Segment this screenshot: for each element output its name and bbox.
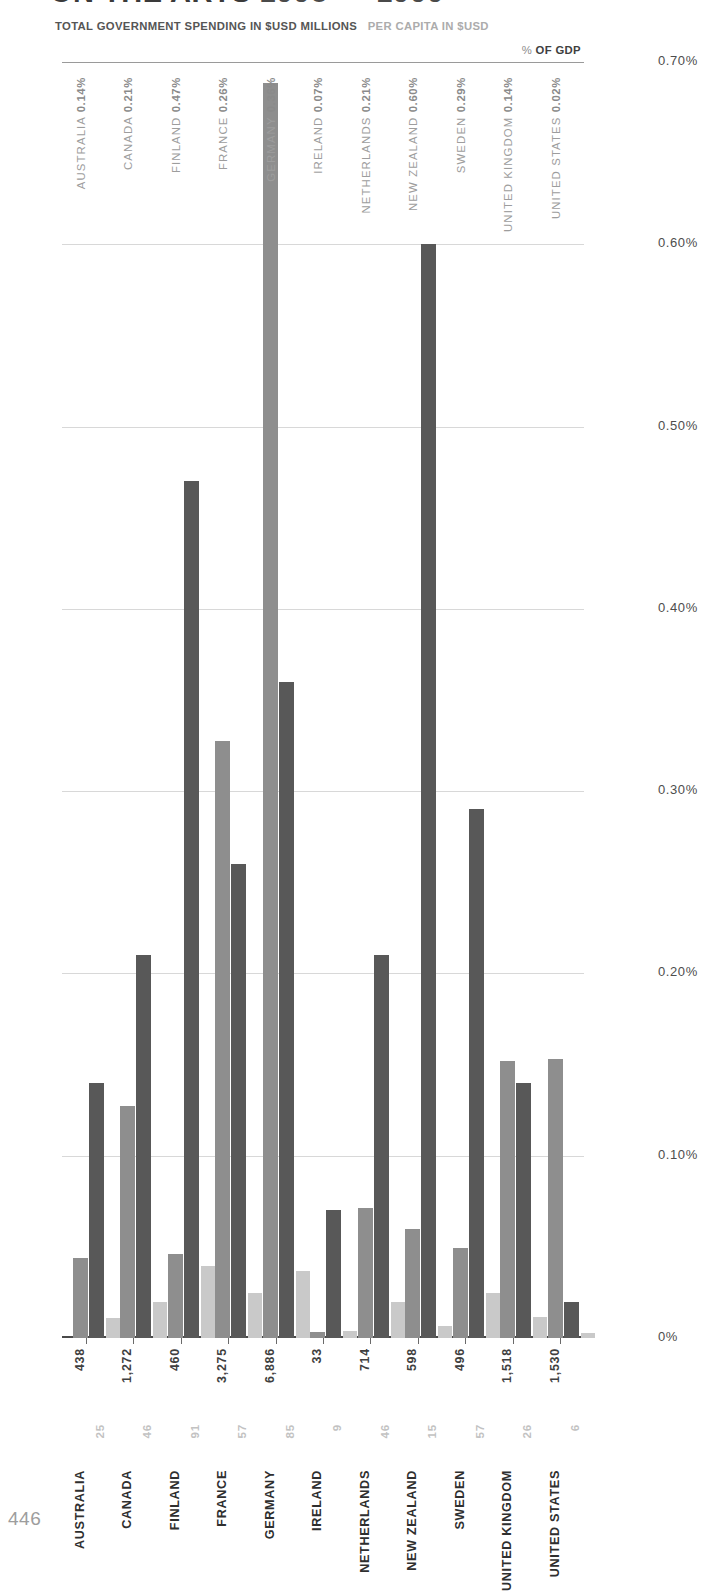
vlabel-country: AUSTRALIA bbox=[75, 112, 87, 189]
bar-gdp-percent[interactable] bbox=[231, 864, 246, 1338]
bar-per-capita[interactable] bbox=[438, 1326, 452, 1338]
bar-per-capita[interactable] bbox=[533, 1317, 547, 1338]
bar-total-spending[interactable] bbox=[548, 1059, 563, 1338]
bottom-total-value: 1,518 bbox=[500, 1348, 514, 1383]
bar-gdp-percent[interactable] bbox=[421, 244, 436, 1338]
vlabel-country: FINLAND bbox=[170, 112, 182, 173]
legend-gdp-label: OF GDP bbox=[536, 44, 581, 56]
vlabel-country: GERMANY bbox=[265, 112, 277, 181]
x-axis-tick bbox=[86, 1338, 87, 1344]
bar-group[interactable] bbox=[500, 62, 536, 1338]
bar-total-spending[interactable] bbox=[358, 1208, 373, 1338]
bottom-per-capita-value: 15 bbox=[425, 1424, 438, 1439]
bar-group[interactable] bbox=[453, 62, 489, 1338]
bottom-per-capita-value: 57 bbox=[235, 1424, 248, 1439]
y-axis-right-tick: 0.20% bbox=[658, 964, 702, 979]
bar-total-spending[interactable] bbox=[73, 1258, 88, 1338]
in-plot-country-gdp-label: FRANCE 0.26% bbox=[217, 77, 229, 170]
bar-group[interactable] bbox=[548, 62, 584, 1338]
bar-per-capita[interactable] bbox=[201, 1266, 215, 1338]
bar-group[interactable] bbox=[120, 62, 156, 1338]
bar-gdp-percent[interactable] bbox=[136, 955, 151, 1338]
x-axis-tick bbox=[370, 1338, 371, 1344]
bar-total-spending[interactable] bbox=[453, 1248, 468, 1338]
vlabel-gdp-value: 0.21% bbox=[122, 77, 134, 112]
bar-total-spending[interactable] bbox=[500, 1061, 515, 1338]
in-plot-country-gdp-label: UNITED STATES 0.02% bbox=[550, 77, 562, 219]
bar-group[interactable] bbox=[73, 62, 109, 1338]
bar-gdp-percent[interactable] bbox=[469, 809, 484, 1338]
bar-gdp-percent[interactable] bbox=[326, 1210, 341, 1338]
in-plot-country-gdp-label: IRELAND 0.07% bbox=[312, 77, 324, 174]
chart-subtitle: TOTAL GOVERNMENT SPENDING IN $USD MILLIO… bbox=[55, 20, 645, 36]
bar-per-capita[interactable] bbox=[106, 1318, 120, 1338]
bar-gdp-percent[interactable] bbox=[279, 682, 294, 1338]
bottom-total-value: 460 bbox=[168, 1348, 182, 1371]
bar-group[interactable] bbox=[168, 62, 204, 1338]
vlabel-gdp-value: 0.60% bbox=[407, 77, 419, 112]
bar-gdp-percent[interactable] bbox=[516, 1083, 531, 1338]
in-plot-country-gdp-label: UNITED KINGDOM 0.14% bbox=[502, 77, 514, 232]
bar-gdp-percent[interactable] bbox=[184, 481, 199, 1338]
legend-gdp-percent-sign: % bbox=[522, 44, 532, 56]
bar-per-capita[interactable] bbox=[296, 1271, 310, 1338]
bar-gdp-percent[interactable] bbox=[564, 1302, 579, 1338]
x-axis-country-label: FINLAND bbox=[168, 1470, 182, 1530]
vlabel-country: UNITED STATES bbox=[550, 112, 562, 219]
x-axis-tick bbox=[513, 1338, 514, 1344]
y-axis-right-tick: 0.30% bbox=[658, 782, 702, 797]
y-axis-right-tick: 0.10% bbox=[658, 1147, 702, 1162]
x-axis-country-label: GERMANY bbox=[263, 1470, 277, 1539]
vlabel-gdp-value: 0.02% bbox=[550, 77, 562, 112]
x-axis-country-label: SWEDEN bbox=[453, 1470, 467, 1529]
bar-total-spending[interactable] bbox=[215, 741, 230, 1338]
bar-per-capita[interactable] bbox=[248, 1293, 262, 1338]
bottom-total-value: 598 bbox=[405, 1348, 419, 1371]
bar-group[interactable] bbox=[310, 62, 346, 1338]
bottom-total-value: 33 bbox=[310, 1348, 324, 1363]
chart-bottom-labels: 43825AUSTRALIA1,27246CANADA46091FINLAND3… bbox=[62, 1348, 584, 1563]
in-plot-country-gdp-label: FINLAND 0.47% bbox=[170, 77, 182, 173]
vlabel-gdp-value: 0.36% bbox=[265, 77, 277, 112]
chart-plot-area: 70000.70%60000.60%50000.50%40000.40%3000… bbox=[62, 62, 584, 1338]
bar-group[interactable] bbox=[263, 62, 299, 1338]
bar-per-capita[interactable] bbox=[153, 1302, 167, 1338]
x-axis-tick bbox=[181, 1338, 182, 1344]
vlabel-country: IRELAND bbox=[312, 112, 324, 173]
y-axis-right-tick: 0.60% bbox=[658, 235, 702, 250]
bottom-per-capita-value: 46 bbox=[140, 1424, 153, 1439]
bar-total-spending[interactable] bbox=[405, 1229, 420, 1338]
bar-total-spending[interactable] bbox=[120, 1106, 135, 1338]
vlabel-gdp-value: 0.14% bbox=[75, 77, 87, 112]
bar-group[interactable] bbox=[405, 62, 441, 1338]
x-axis-tick bbox=[228, 1338, 229, 1344]
vlabel-country: CANADA bbox=[122, 112, 134, 170]
bar-per-capita[interactable] bbox=[486, 1293, 500, 1338]
bar-per-capita[interactable] bbox=[343, 1331, 357, 1338]
bar-total-spending[interactable] bbox=[263, 83, 278, 1338]
vlabel-gdp-value: 0.21% bbox=[360, 77, 372, 112]
x-axis-tick bbox=[276, 1338, 277, 1344]
vlabel-gdp-value: 0.14% bbox=[502, 77, 514, 112]
bar-per-capita[interactable] bbox=[581, 1333, 595, 1338]
vlabel-country: NEW ZEALAND bbox=[407, 112, 419, 211]
x-axis-country-label: CANADA bbox=[120, 1470, 134, 1529]
y-axis-right-tick: 0.70% bbox=[658, 53, 702, 68]
legend-per-capita-label: PER CAPITA IN $USD bbox=[368, 20, 489, 32]
vlabel-gdp-value: 0.47% bbox=[170, 77, 182, 112]
x-axis-tick bbox=[323, 1338, 324, 1344]
chart-title-container: ON THE ARTS 1998 — 1999 bbox=[0, 0, 655, 16]
bar-per-capita[interactable] bbox=[391, 1302, 405, 1338]
bar-gdp-percent[interactable] bbox=[89, 1083, 104, 1338]
x-axis-tick bbox=[133, 1338, 134, 1344]
bar-gdp-percent[interactable] bbox=[374, 955, 389, 1338]
x-axis-tick bbox=[465, 1338, 466, 1344]
bar-total-spending[interactable] bbox=[168, 1254, 183, 1338]
x-axis-country-label: NEW ZEALAND bbox=[405, 1470, 419, 1571]
bar-group[interactable] bbox=[215, 62, 251, 1338]
bar-group[interactable] bbox=[358, 62, 394, 1338]
vlabel-country: FRANCE bbox=[217, 112, 229, 170]
legend-total-spending-label: TOTAL GOVERNMENT SPENDING IN $USD MILLIO… bbox=[55, 20, 357, 32]
x-axis-country-label: UNITED KINGDOM bbox=[500, 1470, 514, 1591]
in-plot-country-gdp-label: AUSTRALIA 0.14% bbox=[75, 77, 87, 189]
